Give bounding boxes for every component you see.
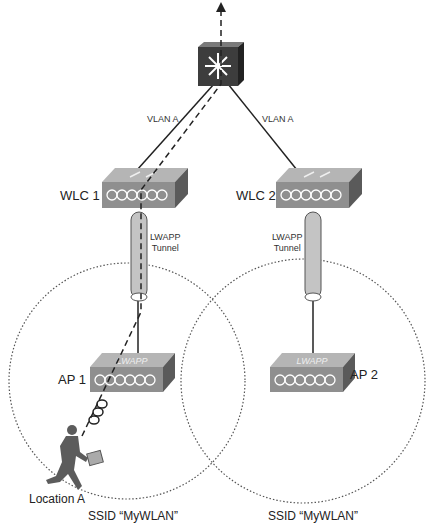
- ap-2-icon: LWAPP: [270, 353, 355, 392]
- wlc-2-icon: [276, 168, 362, 208]
- ap-1-face-text: LWAPP: [116, 356, 147, 366]
- ssid-label-2: SSID “MyWLAN”: [268, 509, 358, 523]
- mobile-user-icon: [46, 425, 103, 490]
- ssid-label-1: SSID “MyWLAN”: [88, 509, 178, 523]
- vlan-link-2: [228, 84, 297, 170]
- radio-signal-icon: [89, 400, 107, 424]
- location-label: Location A: [29, 492, 85, 506]
- ap-2-face-text: LWAPP: [296, 356, 327, 366]
- arrow-up-icon: [216, 2, 226, 12]
- wlc-1-icon: [102, 168, 188, 208]
- tunnel-2-label: LWAPP Tunnel: [272, 232, 303, 254]
- wlc-1-label: WLC 1: [60, 188, 100, 203]
- tunnel-1-label: LWAPP Tunnel: [150, 232, 181, 254]
- ap-1-icon: LWAPP: [90, 353, 175, 392]
- ap-2-label: AP 2: [350, 367, 378, 382]
- network-diagram: LWAPP LWAPP: [0, 0, 435, 532]
- vlan-label-2: VLAN A: [262, 114, 294, 125]
- ap-1-label: AP 1: [58, 372, 86, 387]
- vlan-link-1: [137, 84, 214, 170]
- lwapp-tunnel-1: [131, 212, 147, 301]
- vlan-label-1: VLAN A: [147, 114, 179, 125]
- lwapp-tunnel-2: [305, 212, 321, 301]
- wlc-2-label: WLC 2: [236, 188, 276, 203]
